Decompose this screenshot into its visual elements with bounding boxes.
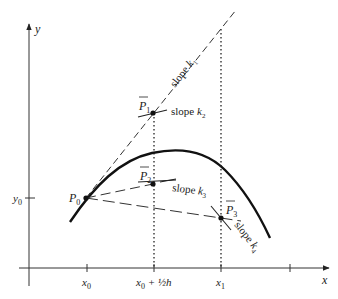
point-p3 <box>218 215 223 220</box>
point-p0 <box>83 195 88 200</box>
slope-k4-label: slope k4 <box>230 219 263 256</box>
x-tick-label-x0-half-h: x0 + ½h <box>135 276 172 291</box>
point-p1 <box>150 110 155 115</box>
slope-k1-label: slope k1 <box>167 54 200 91</box>
label-p0: P0 <box>68 191 80 207</box>
axes <box>19 24 329 286</box>
label-p1: P1 <box>138 97 150 115</box>
label-p2: P2 <box>139 167 151 185</box>
slope-k2-label: slope k2 <box>171 105 206 120</box>
x-tick-label-x1: x1 <box>215 276 225 291</box>
svg-text:P1: P1 <box>138 99 150 115</box>
y-axis-label: y <box>34 22 41 36</box>
x-tick-label-x0: x0 <box>81 276 91 291</box>
slope-k1-line <box>86 10 236 198</box>
x-axis-label: x <box>321 273 328 287</box>
y-tick-label-y0: y0 <box>12 192 22 207</box>
runge-kutta-diagram: y x x0 x0 + ½h x1 y0 P0 P1 P2 P3 slope k… <box>0 0 338 299</box>
slope-line-p0-p3 <box>86 198 241 221</box>
svg-text:P3: P3 <box>225 203 237 219</box>
svg-text:P2: P2 <box>139 169 151 185</box>
slope-k3-label: slope k3 <box>171 181 207 200</box>
label-p3: P3 <box>225 201 237 219</box>
